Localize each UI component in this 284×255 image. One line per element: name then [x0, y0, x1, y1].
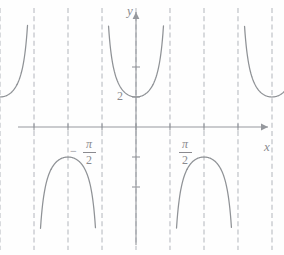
y-tick-label-2: 2: [117, 90, 123, 102]
x-tick-label-pi-over-2: π 2: [172, 138, 198, 166]
minus-sign: −: [70, 144, 77, 159]
x-tick-label-neg-pi-over-2: − π 2: [72, 138, 106, 166]
function-graph-figure: y x 2 − π 2 π 2: [0, 0, 284, 255]
y-axis-label: y: [127, 4, 133, 17]
x-axis-label: x: [264, 140, 270, 153]
fraction-denominator: 2: [172, 154, 198, 167]
fraction-denominator: 2: [72, 154, 106, 167]
fraction-numerator: π: [172, 138, 198, 151]
plot-canvas: [0, 0, 284, 255]
fraction-numerator: π: [72, 138, 106, 151]
